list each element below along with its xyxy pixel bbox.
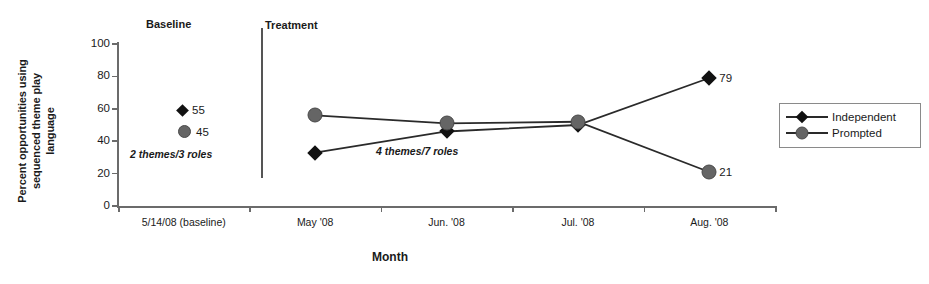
y-tick-label: 40 <box>78 135 110 146</box>
circle-icon <box>796 127 809 140</box>
data-point-prompted <box>308 108 323 123</box>
phase-label-treatment: Treatment <box>265 19 318 31</box>
y-tick-label: 20 <box>78 168 110 179</box>
x-tick-label: 5/14/08 (baseline) <box>142 216 226 228</box>
legend-label-independent: Independent <box>832 111 896 123</box>
y-tick <box>112 173 118 175</box>
y-tick <box>112 76 118 78</box>
legend-label-prompted: Prompted <box>832 127 882 139</box>
legend-marker-diamond <box>786 111 828 123</box>
x-tick-label: Jun. '08 <box>428 216 464 228</box>
y-tick-label: 80 <box>78 70 110 81</box>
legend-marker-circle <box>786 127 828 139</box>
y-axis-title-line-3: language <box>43 31 57 231</box>
x-tick <box>118 206 120 212</box>
legend: Independent Prompted <box>779 103 921 148</box>
y-tick <box>112 140 118 142</box>
series-line-independent <box>315 78 709 153</box>
x-tick-label: Jul. '08 <box>561 216 594 228</box>
data-point-label-independent: 79 <box>719 72 732 84</box>
y-tick-label: 0 <box>78 200 110 211</box>
data-point-prompted <box>570 114 585 129</box>
x-tick <box>381 206 383 212</box>
legend-item-prompted[interactable]: Prompted <box>786 125 914 141</box>
data-point-label-prompted: 21 <box>719 166 732 178</box>
y-tick-label: 100 <box>78 38 110 49</box>
data-point-prompted <box>439 116 454 131</box>
diamond-icon <box>796 111 809 124</box>
chart-figure: Percent opportunities using sequenced th… <box>0 0 929 284</box>
phase-label-baseline: Baseline <box>146 18 191 30</box>
y-axis-title-line-2: sequenced theme play <box>29 31 43 231</box>
x-tick-label: May '08 <box>297 216 333 228</box>
x-tick <box>775 206 777 212</box>
x-tick <box>644 206 646 212</box>
data-point-prompted <box>702 164 717 179</box>
y-tick <box>112 108 118 110</box>
legend-item-independent[interactable]: Independent <box>786 109 914 125</box>
y-tick-label: 60 <box>78 103 110 114</box>
x-tick-label: Aug. '08 <box>690 216 728 228</box>
x-tick <box>249 206 251 212</box>
x-tick <box>512 206 514 212</box>
plot-area: 020406080100 5/14/08 (baseline)May '08Ju… <box>118 44 775 206</box>
y-tick <box>112 43 118 45</box>
y-axis-title: Percent opportunities using sequenced th… <box>15 31 57 231</box>
x-axis-line <box>117 206 776 208</box>
y-axis-title-line-1: Percent opportunities using <box>15 31 29 231</box>
x-axis-title: Month <box>0 250 780 264</box>
